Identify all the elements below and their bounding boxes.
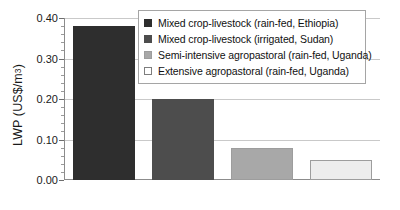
chart-legend: Mixed crop-livestock (rain-fed, Ethiopia… — [138, 10, 366, 84]
legend-item: Semi-intensive agropastoral (rain-fed, U… — [144, 47, 359, 63]
bar-chart: LWP (US$/m3) 0.000.100.200.300.40 Mixed … — [0, 0, 400, 210]
bar — [231, 148, 293, 180]
y-tick-label: 0.10 — [22, 134, 58, 146]
y-tick-label: 0.20 — [22, 93, 58, 105]
y-axis-tick-labels: 0.000.100.200.300.40 — [22, 18, 58, 180]
legend-swatch — [144, 35, 152, 43]
legend-label: Mixed crop-livestock (rain-fed, Ethiopia… — [158, 17, 338, 29]
legend-item: Mixed crop-livestock (irrigated, Sudan) — [144, 31, 359, 47]
y-tick-label: 0.00 — [22, 174, 58, 186]
legend-swatch — [144, 67, 152, 75]
legend-label: Semi-intensive agropastoral (rain-fed, U… — [158, 49, 372, 61]
legend-label: Extensive agropastoral (rain-fed, Uganda… — [158, 65, 349, 77]
y-tick-label: 0.30 — [22, 53, 58, 65]
bar — [310, 160, 372, 180]
legend-item: Extensive agropastoral (rain-fed, Uganda… — [144, 63, 359, 79]
y-tick-major — [59, 180, 64, 181]
legend-swatch — [144, 19, 152, 27]
y-tick-label: 0.40 — [22, 12, 58, 24]
bar — [73, 26, 135, 180]
bar — [152, 99, 214, 180]
legend-swatch — [144, 51, 152, 59]
legend-item: Mixed crop-livestock (rain-fed, Ethiopia… — [144, 15, 359, 31]
legend-label: Mixed crop-livestock (irrigated, Sudan) — [158, 33, 333, 45]
